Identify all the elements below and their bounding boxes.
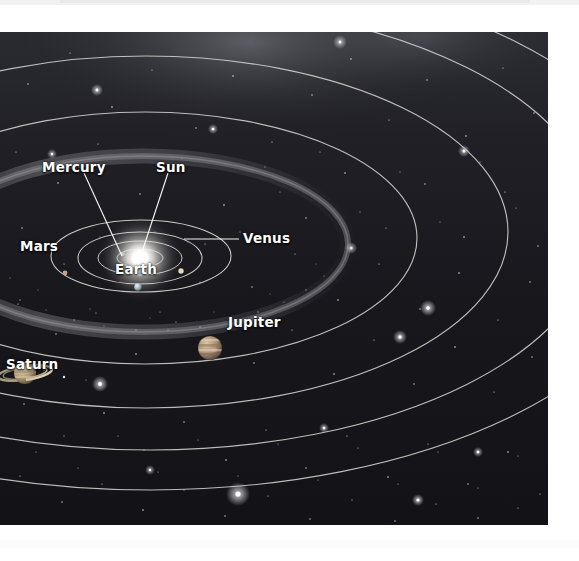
page-canvas: Mercury Sun Venus Mars Earth Jupiter Sat… (0, 0, 579, 561)
label-saturn: Saturn (6, 358, 58, 372)
solar-system-svg (0, 32, 548, 525)
earth-body (134, 283, 142, 291)
label-mercury: Mercury (42, 161, 106, 175)
label-sun: Sun (156, 161, 186, 175)
venus-body (178, 268, 183, 273)
label-earth: Earth (115, 263, 157, 277)
page-bottom-band (0, 540, 579, 548)
solar-system-illustration: Mercury Sun Venus Mars Earth Jupiter Sat… (0, 32, 548, 525)
label-jupiter: Jupiter (228, 316, 281, 330)
jupiter-body (198, 336, 222, 360)
label-mars: Mars (20, 240, 58, 254)
label-venus: Venus (243, 232, 290, 246)
mars-body (63, 271, 68, 276)
page-top-band-inner (60, 0, 530, 3)
